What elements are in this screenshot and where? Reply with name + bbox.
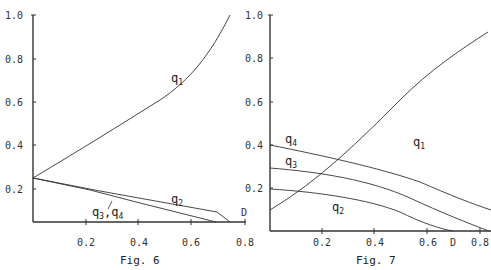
fig6-label-q1: q1: [171, 71, 183, 87]
fig7-label-q2: q2: [332, 200, 344, 216]
fig7-xtick-0.4: 0.4: [366, 237, 384, 248]
fig7-ytick-1.0: 1.0: [245, 10, 263, 21]
fig7-ytick-0.2: 0.2: [245, 183, 263, 194]
fig6-curve-q3q4: [33, 178, 216, 222]
fig6-chart: [31, 15, 246, 225]
fig7-curve-q4: [270, 145, 491, 210]
fig6-xtick-0.4: 0.4: [130, 237, 148, 248]
fig6-label-q3q4: q3,q4: [92, 205, 124, 221]
fig7-label-q3: q3: [285, 154, 297, 170]
fig7-chart: [268, 15, 491, 234]
fig7-curve-q2: [270, 189, 453, 231]
fig7-ytick-0.6: 0.6: [245, 97, 263, 108]
fig6-ytick-0.8: 0.8: [5, 54, 23, 65]
fig6-caption: Fig. 6: [120, 254, 160, 267]
fig7-label-q1: q1: [413, 135, 425, 151]
fig6-xtick-0.2: 0.2: [77, 237, 95, 248]
fig6-xtick-0.6: 0.6: [182, 237, 200, 248]
fig6-ytick-0.4: 0.4: [5, 140, 23, 151]
fig6-label-q2: q2: [171, 192, 183, 208]
fig7-curve-q3: [270, 168, 489, 231]
fig7-ytick-0.4: 0.4: [245, 140, 263, 151]
fig6-curve-q1: [33, 15, 230, 178]
fig7-xtick-0.2: 0.2: [313, 237, 331, 248]
fig6-xtick-0.8: 0.8: [236, 237, 254, 248]
figures-canvas: 1.0 0.8 0.6 0.4 0.2 0.2 0.4 0.6 0.8 D q1…: [0, 0, 491, 270]
fig7-label-q4: q4: [285, 132, 297, 148]
fig6-ytick-1.0: 1.0: [5, 10, 23, 21]
fig6-ytick-0.6: 0.6: [5, 97, 23, 108]
fig6-ytick-0.2: 0.2: [5, 184, 23, 195]
fig7-curve-q1: [270, 32, 488, 210]
fig6-d-label: D: [241, 207, 247, 218]
fig7-xtick-0.6: 0.6: [419, 237, 437, 248]
fig7-xtick-0.8: 0.8: [471, 237, 489, 248]
fig7-xtick-d: D: [450, 237, 456, 248]
fig7-ytick-0.8: 0.8: [245, 53, 263, 64]
fig7-caption: Fig. 7: [356, 254, 396, 267]
